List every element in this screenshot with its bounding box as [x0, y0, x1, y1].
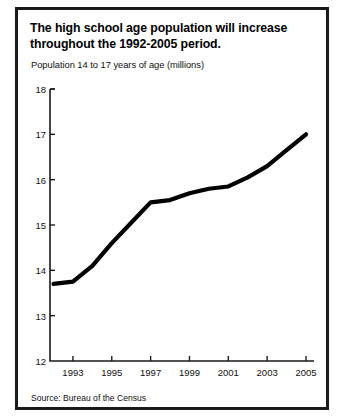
x-axis-tick-label: 1993 [55, 367, 91, 378]
x-axis-tick-label: 2003 [249, 367, 285, 378]
x-axis-tick-label: 2001 [210, 367, 246, 378]
source-note: Source: Bureau of the Census [31, 393, 146, 403]
x-axis-tick-label: 2005 [288, 367, 324, 378]
x-axis-tick-label: 1999 [171, 367, 207, 378]
y-axis-tick-label: 18 [24, 84, 46, 95]
y-axis-tick-label: 13 [24, 310, 46, 321]
y-axis-tick-label: 15 [24, 220, 46, 231]
figure-frame: The high school age population will incr… [15, 7, 329, 410]
x-axis-tick-label: 1997 [133, 367, 169, 378]
y-axis-tick-label: 12 [24, 356, 46, 367]
y-axis-tick-label: 16 [24, 174, 46, 185]
x-axis-tick-label: 1995 [94, 367, 130, 378]
y-axis-tick-label: 17 [24, 129, 46, 140]
line-chart-svg [19, 11, 327, 408]
plot-area: 12131415161718 1993199519971999200120032… [19, 11, 327, 408]
y-axis-tick-label: 14 [24, 265, 46, 276]
figure-panel: The high school age population will incr… [18, 10, 326, 407]
